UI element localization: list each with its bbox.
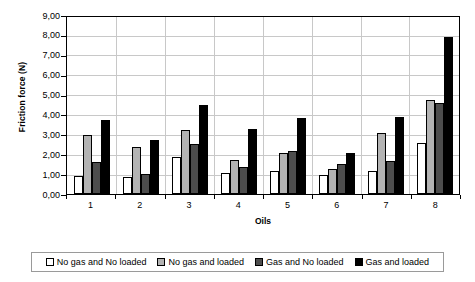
- bar: [319, 175, 328, 194]
- legend-item: No gas and No loaded: [46, 258, 147, 267]
- x-tick-mark: [460, 195, 461, 199]
- bar: [239, 167, 248, 194]
- x-axis-tick-labels: 12345678: [66, 200, 460, 214]
- y-tick-mark: [61, 175, 66, 176]
- x-tick-label: 7: [362, 200, 411, 214]
- y-tick-label: 5,00: [18, 91, 60, 100]
- x-tick-mark: [214, 195, 215, 199]
- bar-group: [361, 17, 410, 194]
- x-tick-label: 1: [66, 200, 115, 214]
- bar: [288, 151, 297, 194]
- bar: [92, 162, 101, 194]
- bar-group: [165, 17, 214, 194]
- bar: [101, 120, 110, 194]
- x-tick-mark: [312, 195, 313, 199]
- x-tick-mark: [411, 195, 412, 199]
- y-tick-mark: [61, 135, 66, 136]
- bar: [74, 176, 83, 194]
- legend-item: No gas and loaded: [157, 258, 244, 267]
- y-tick-label: 2,00: [18, 151, 60, 160]
- bar: [190, 144, 199, 194]
- bar: [346, 153, 355, 194]
- legend-label: Gas and No loaded: [266, 258, 344, 267]
- bar: [123, 177, 132, 194]
- bar: [444, 37, 453, 194]
- y-tick-label: 7,00: [18, 51, 60, 60]
- y-tick-mark: [61, 36, 66, 37]
- bar: [230, 160, 239, 194]
- y-tick-label: 3,00: [18, 131, 60, 140]
- legend-swatch-icon: [255, 258, 263, 266]
- x-tick-label: 3: [165, 200, 214, 214]
- bar-group: [263, 17, 312, 194]
- y-tick-mark: [61, 56, 66, 57]
- y-tick-label: 0,00: [18, 191, 60, 200]
- y-tick-mark: [61, 96, 66, 97]
- bar: [328, 169, 337, 194]
- plot-area: [66, 16, 460, 195]
- y-tick-label: 8,00: [18, 31, 60, 40]
- bar: [297, 118, 306, 194]
- bar-group: [67, 17, 116, 194]
- bar: [377, 133, 386, 194]
- bar: [426, 100, 435, 194]
- bar: [395, 117, 404, 194]
- bar: [83, 135, 92, 194]
- y-tick-mark: [61, 76, 66, 77]
- legend-label: Gas and loaded: [366, 258, 430, 267]
- x-tick-mark: [115, 195, 116, 199]
- y-tick-label: 9,00: [18, 12, 60, 21]
- y-tick-label: 6,00: [18, 71, 60, 80]
- y-axis-tick-labels: 0,001,002,003,004,005,006,007,008,009,00: [18, 0, 60, 282]
- bar: [279, 153, 288, 194]
- bar-group: [312, 17, 361, 194]
- x-tick-label: 2: [115, 200, 164, 214]
- bar: [141, 174, 150, 194]
- bar: [199, 105, 208, 194]
- x-tick-label: 8: [411, 200, 460, 214]
- legend-label: No gas and loaded: [168, 258, 244, 267]
- x-tick-label: 4: [214, 200, 263, 214]
- x-tick-mark: [66, 195, 67, 199]
- bar: [337, 164, 346, 194]
- bar: [172, 157, 181, 194]
- y-tick-mark: [61, 155, 66, 156]
- bar-group: [410, 17, 459, 194]
- x-tick-label: 6: [312, 200, 361, 214]
- bar-chart: Friction force (N) 0,001,002,003,004,005…: [0, 0, 475, 282]
- x-tick-label: 5: [263, 200, 312, 214]
- legend-label: No gas and No loaded: [57, 258, 147, 267]
- legend-swatch-icon: [46, 258, 54, 266]
- legend-swatch-icon: [157, 258, 165, 266]
- y-tick-mark: [61, 195, 66, 196]
- bar: [435, 103, 444, 194]
- bar: [386, 161, 395, 194]
- y-tick-label: 4,00: [18, 111, 60, 120]
- bar-group: [116, 17, 165, 194]
- bar: [417, 143, 426, 194]
- legend-item: Gas and No loaded: [255, 258, 344, 267]
- x-axis-title: Oils: [66, 216, 460, 226]
- bar: [150, 140, 159, 194]
- legend-swatch-icon: [355, 258, 363, 266]
- x-tick-mark: [362, 195, 363, 199]
- bar: [248, 129, 257, 194]
- y-tick-mark: [61, 16, 66, 17]
- x-tick-mark: [165, 195, 166, 199]
- chart-legend: No gas and No loadedNo gas and loadedGas…: [31, 252, 444, 272]
- bar-group: [214, 17, 263, 194]
- bar: [132, 147, 141, 194]
- bar-groups: [67, 17, 459, 194]
- y-tick-mark: [61, 115, 66, 116]
- bar: [368, 171, 377, 194]
- bar: [221, 173, 230, 194]
- legend-item: Gas and loaded: [355, 258, 430, 267]
- y-tick-label: 1,00: [18, 171, 60, 180]
- bar: [270, 171, 279, 194]
- x-tick-mark: [263, 195, 264, 199]
- bar: [181, 130, 190, 194]
